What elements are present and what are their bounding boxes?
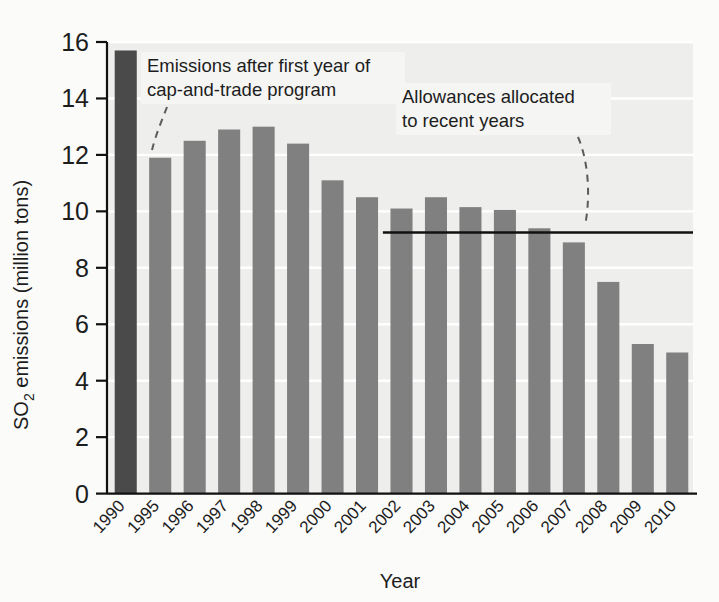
y-axis-title-suffix: emissions (million tons) [10, 180, 32, 393]
y-tick-label: 14 [61, 84, 89, 112]
y-axis-title-subscript: 2 [21, 393, 37, 401]
bar-1998 [253, 127, 275, 494]
bar-1997 [218, 130, 240, 494]
chart-figure: 0246810121416 19901995199619971998199920… [0, 0, 719, 602]
bar-1999 [287, 144, 309, 494]
y-axis-title-prefix: SO [10, 401, 32, 430]
bar-2001 [356, 197, 378, 493]
bar-2007 [563, 242, 585, 493]
bar-2010 [666, 352, 688, 493]
y-tick-label: 2 [75, 423, 89, 451]
bar-2004 [459, 207, 481, 493]
annotation-emissions-line1: Emissions after first year of [147, 55, 371, 76]
y-tick-label: 10 [61, 197, 89, 225]
annotation-emissions-line2: cap-and-trade program [147, 79, 336, 100]
bar-2003 [425, 197, 447, 493]
bar-2009 [632, 344, 654, 494]
bar-1995 [149, 158, 171, 494]
y-tick-label: 8 [75, 254, 89, 282]
bar-1990 [115, 50, 137, 493]
bar-2000 [322, 180, 344, 493]
bar-2002 [390, 209, 412, 494]
so2-emissions-bar-chart: 0246810121416 19901995199619971998199920… [0, 0, 719, 602]
bar-2006 [528, 228, 550, 493]
bar-1996 [184, 141, 206, 494]
y-tick-label: 12 [61, 141, 89, 169]
x-axis-title: Year [380, 570, 421, 592]
y-tick-label: 16 [61, 28, 89, 56]
annotation-allowances-line2: to recent years [402, 110, 524, 131]
annotation-allowances-line1: Allowances allocated [402, 86, 575, 107]
y-tick-label: 0 [75, 480, 89, 508]
bar-2005 [494, 210, 516, 494]
y-tick-label: 4 [75, 367, 89, 395]
y-tick-label: 6 [75, 310, 89, 338]
bar-2008 [597, 282, 619, 494]
